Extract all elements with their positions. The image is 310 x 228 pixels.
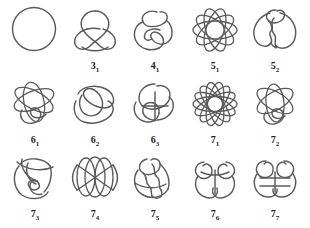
- knot-7-4-diagram: [66, 150, 124, 208]
- knot-label-4-1: 41: [151, 59, 160, 73]
- knot-label-6-2: 62: [91, 133, 100, 147]
- knot-label-7-5: 75: [151, 207, 160, 221]
- knot-cell-4-1[interactable]: 41: [126, 2, 184, 76]
- knot-label-5-2: 52: [271, 59, 280, 73]
- knot-cell-7-3[interactable]: 73: [6, 150, 64, 224]
- knot-cell-unknot[interactable]: [6, 2, 64, 76]
- knot-7-6-diagram: [186, 150, 244, 208]
- knot-row-1: 31 41: [0, 2, 310, 78]
- knot-7-2-diagram: [246, 76, 304, 134]
- knot-cell-3-1[interactable]: 31: [66, 2, 124, 76]
- knot-cell-6-2[interactable]: 62: [66, 76, 124, 150]
- knot-label-6-3: 63: [151, 133, 160, 147]
- knot-label-7-1: 71: [211, 133, 220, 147]
- knot-label-7-6: 76: [211, 207, 220, 221]
- knot-label-7-2: 72: [271, 133, 280, 147]
- knot-row-2: 61 62: [0, 76, 310, 152]
- knot-cell-5-2[interactable]: 52: [246, 2, 304, 76]
- knot-6-2-diagram: [66, 76, 124, 134]
- knot-cell-5-1[interactable]: 51: [186, 2, 244, 76]
- knot-7-3-diagram: [6, 150, 64, 208]
- unknot-diagram: [6, 2, 64, 60]
- figure-eight-diagram: [126, 2, 184, 60]
- knot-cell-7-4[interactable]: 74: [66, 150, 124, 224]
- knot-cell-6-1[interactable]: 61: [6, 76, 64, 150]
- knot-label-6-1: 61: [31, 133, 40, 147]
- knot-7-7-diagram: [246, 150, 304, 208]
- twist-5-diagram: [246, 2, 304, 60]
- knot-label-3-1: 31: [91, 59, 100, 73]
- knot-cell-7-6[interactable]: 76: [186, 150, 244, 224]
- knot-label-7-4: 74: [91, 207, 100, 221]
- rosette-5-diagram: [186, 2, 244, 60]
- knot-label-7-7: 77: [271, 207, 280, 221]
- knot-cell-7-2[interactable]: 72: [246, 76, 304, 150]
- knot-cell-7-7[interactable]: 77: [246, 150, 304, 224]
- knot-7-5-diagram: [126, 150, 184, 208]
- knot-cell-7-1[interactable]: 71: [186, 76, 244, 150]
- knot-label-7-3: 73: [31, 207, 40, 221]
- knot-6-3-diagram: [126, 76, 184, 134]
- knot-cell-7-5[interactable]: 75: [126, 150, 184, 224]
- knot-6-1-diagram: [6, 76, 64, 134]
- knot-cell-6-3[interactable]: 63: [126, 76, 184, 150]
- rosette-7-diagram: [186, 76, 244, 134]
- knot-row-3: 73 74: [0, 150, 310, 226]
- knot-label-5-1: 51: [211, 59, 220, 73]
- trefoil-diagram: [66, 2, 124, 60]
- knot-table-figure: 31 41: [0, 0, 310, 228]
